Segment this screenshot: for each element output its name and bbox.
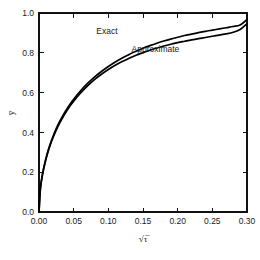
y-tick-label: 1.0 xyxy=(22,8,34,18)
x-tick-label: 0.30 xyxy=(239,216,256,226)
x-tick-label: 0.00 xyxy=(31,216,48,226)
y-tick-label: 0.8 xyxy=(22,48,34,58)
y-tick-label: 0.6 xyxy=(22,88,34,98)
x-tick-label: 0.05 xyxy=(65,216,82,226)
y-tick-label: 0.2 xyxy=(22,167,34,177)
x-tick-label: 0.25 xyxy=(204,216,221,226)
x-axis-title-text: √τ̅ xyxy=(139,234,151,244)
x-tick-label: 0.20 xyxy=(169,216,186,226)
x-axis-ticks-bottom xyxy=(74,208,213,213)
y-tick-label: 0.4 xyxy=(22,128,34,138)
x-axis-tick-labels: 0.000.050.100.150.200.250.30 xyxy=(31,216,256,226)
y-axis-title: y̅ xyxy=(6,110,16,116)
chart-canvas: 0.000.050.100.150.200.250.30 0.00.20.40.… xyxy=(0,0,260,260)
y-axis-ticks-left xyxy=(39,53,44,172)
curve-label-approximate: Approximate xyxy=(132,44,180,54)
y-axis-ticks-right xyxy=(243,53,248,172)
x-axis-title: √τ̅ xyxy=(139,234,151,244)
x-axis-ticks-top xyxy=(74,13,213,18)
y-axis-tick-labels: 0.00.20.40.60.81.0 xyxy=(22,8,34,217)
y-axis-title-text: y̅ xyxy=(6,110,16,116)
curve-label-exact: Exact xyxy=(96,26,118,36)
x-tick-label: 0.15 xyxy=(135,216,152,226)
y-tick-label: 0.0 xyxy=(22,207,34,217)
x-tick-label: 0.10 xyxy=(100,216,117,226)
chart-figure: 0.000.050.100.150.200.250.30 0.00.20.40.… xyxy=(0,0,260,260)
